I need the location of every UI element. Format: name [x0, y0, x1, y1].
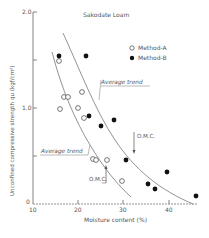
legend-method-b: Method-B [138, 54, 167, 61]
x-tick-label-10: 10 [29, 206, 37, 213]
data-point [57, 59, 62, 64]
data-point [153, 187, 158, 192]
trend-label-lower-leader [88, 145, 90, 155]
trend-label-lower: Average trend [40, 148, 83, 155]
series-method-b [57, 54, 199, 199]
data-point [124, 158, 129, 163]
y-tick-label-1: 1.0 [22, 104, 32, 111]
x-ticks [78, 200, 169, 204]
data-point [146, 182, 151, 187]
y-tick-label-0: 0 [26, 198, 30, 205]
data-point [58, 107, 63, 112]
data-point [112, 118, 117, 123]
data-point [120, 179, 125, 184]
data-point [84, 54, 89, 59]
x-tick-label-40: 40 [165, 206, 173, 213]
legend-method-a: Method-A [138, 44, 168, 51]
data-point [94, 158, 99, 163]
y-tick-label-2: 2.0 [22, 8, 32, 15]
x-axis-label: Moisture content (%) [84, 216, 147, 223]
trend-label-upper: Average trend [100, 79, 143, 86]
chart-title: Sakodate Loam [83, 11, 129, 18]
data-point [66, 95, 71, 100]
omc-label-lower: O.M.C. [89, 176, 107, 182]
y-axis-label: Unconfined compressive strength qu (kgf/… [9, 65, 16, 196]
chart: 2.0 1.0 0 10 20 30 40 Moisture content (… [0, 0, 209, 238]
data-point [82, 116, 87, 121]
data-point [80, 90, 85, 95]
data-point [194, 194, 199, 199]
trend-label-upper-leader [99, 80, 101, 100]
data-point [105, 158, 110, 163]
legend-filled-circle-icon [130, 56, 134, 60]
data-point [99, 124, 104, 129]
legend-open-circle-icon [130, 46, 134, 50]
x-tick-label-30: 30 [119, 206, 127, 213]
data-point [165, 170, 170, 175]
x-tick-label-20: 20 [74, 206, 82, 213]
data-point [57, 54, 62, 59]
data-point [87, 114, 92, 119]
omc-arrowhead-upper-icon [133, 150, 136, 154]
omc-label-upper: O.M.C. [137, 133, 155, 139]
data-point [76, 106, 81, 111]
y-ticks [33, 12, 37, 156]
